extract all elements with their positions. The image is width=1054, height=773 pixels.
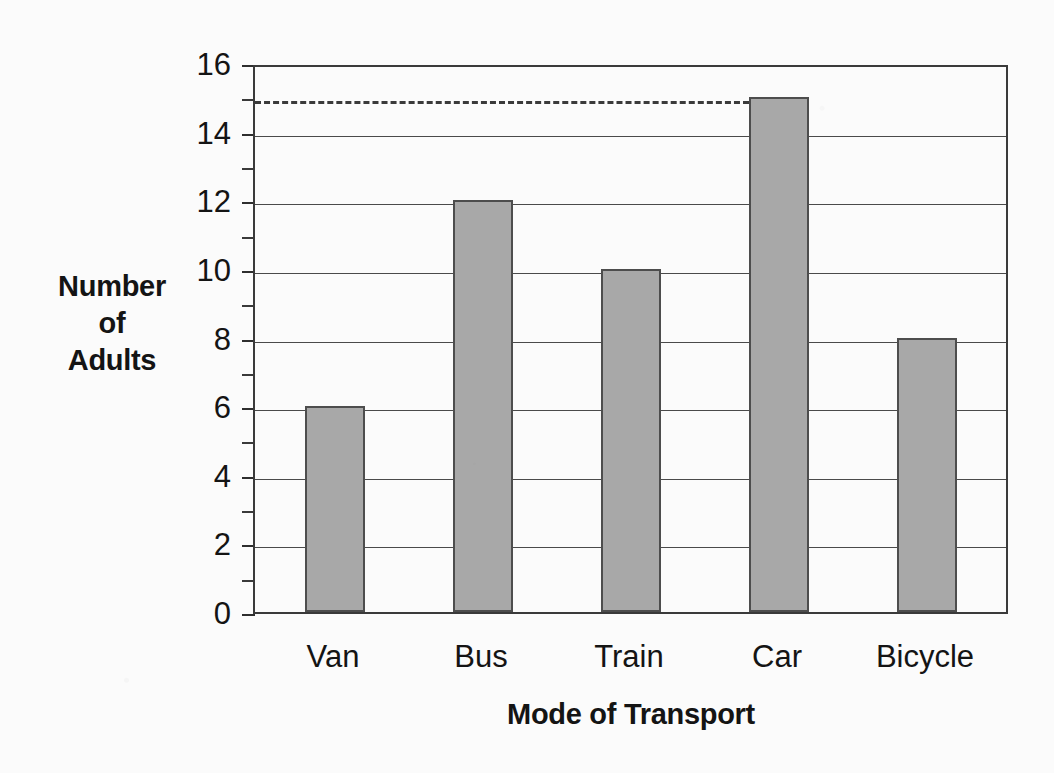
- y-tick-label-14: 14: [173, 118, 231, 149]
- y-tick-label-6: 6: [173, 392, 231, 423]
- gridline: [255, 136, 1006, 137]
- bar-car: [749, 97, 809, 612]
- x-tick-label-van: Van: [253, 641, 413, 672]
- x-axis-title: Mode of Transport: [253, 698, 1009, 731]
- plot-area: [253, 65, 1008, 614]
- bar-bicycle: [897, 338, 957, 613]
- bar-bus: [453, 200, 513, 612]
- y-tick-label-8: 8: [173, 324, 231, 355]
- reference-line-15: [255, 101, 749, 104]
- y-tick-major-0: [242, 614, 255, 616]
- y-tick-label-10: 10: [173, 255, 231, 286]
- bar-chart-figure: Number of Adults 0246810121416 VanBusTra…: [0, 0, 1054, 773]
- y-tick-label-4: 4: [173, 461, 231, 492]
- x-tick-label-bus: Bus: [401, 641, 561, 672]
- x-tick-label-train: Train: [549, 641, 709, 672]
- bar-van: [305, 406, 365, 612]
- x-tick-label-bicycle: Bicycle: [845, 641, 1005, 672]
- bar-train: [601, 269, 661, 612]
- x-tick-label-car: Car: [697, 641, 857, 672]
- gridline: [255, 204, 1006, 205]
- y-tick-label-16: 16: [173, 49, 231, 80]
- y-tick-label-2: 2: [173, 529, 231, 560]
- y-tick-label-0: 0: [173, 598, 231, 629]
- y-tick-label-12: 12: [173, 186, 231, 217]
